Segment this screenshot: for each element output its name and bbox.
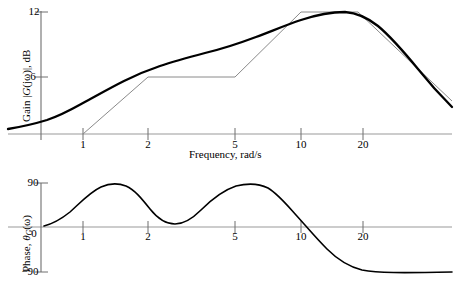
phase-y-axis-label: Phase, θG(ω)	[20, 215, 34, 272]
bode-plot-figure: Gain |G(jω)|, dB 12 6 1 2 5 10 20 Freque…	[0, 0, 454, 284]
phase-xtick-label-5: 5	[228, 230, 242, 242]
phase-ytick-label-minus-90: −90	[18, 265, 42, 277]
phase-curve	[44, 184, 452, 273]
phase-plot-canvas	[0, 0, 454, 284]
phase-xtick-label-2: 2	[141, 230, 155, 242]
phase-ytick-label-90: 90	[24, 176, 42, 188]
phase-xtick-label-1: 1	[76, 230, 90, 242]
phase-xtick-label-10: 10	[292, 230, 310, 242]
phase-ytick-label-0: 0	[28, 227, 40, 239]
phase-xtick-label-20: 20	[354, 230, 372, 242]
